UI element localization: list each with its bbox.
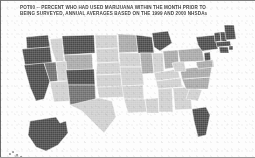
state-mt bbox=[62, 35, 95, 55]
state-al bbox=[158, 88, 173, 112]
state-az bbox=[50, 81, 70, 102]
state-ks bbox=[96, 74, 122, 87]
state-in bbox=[152, 53, 164, 73]
figure-frame: POT00 -- PERCENT WHO HAD USED MARIJUANA … bbox=[0, 0, 255, 158]
state-or bbox=[22, 47, 52, 65]
hawaii-island-1 bbox=[9, 153, 11, 155]
state-ri bbox=[229, 46, 233, 50]
frame-border-left bbox=[0, 0, 1, 158]
state-wa bbox=[26, 35, 50, 49]
state-wy bbox=[64, 54, 93, 70]
caption-line-2: BEING SURVEYED, ANNUAL AVERAGES BASED ON… bbox=[20, 10, 242, 17]
hawaii-island-3 bbox=[16, 154, 18, 156]
state-la bbox=[124, 99, 147, 113]
state-ia bbox=[119, 53, 141, 67]
state-il bbox=[140, 53, 154, 74]
hawaii-island-2 bbox=[12, 151, 14, 153]
state-ms bbox=[145, 98, 159, 113]
state-co bbox=[66, 69, 95, 85]
state-mo bbox=[120, 67, 144, 86]
state-ak bbox=[28, 117, 68, 151]
state-mi bbox=[152, 31, 172, 51]
figure-caption: POT00 -- PERCENT WHO HAD USED MARIJUANA … bbox=[20, 4, 242, 15]
state-me bbox=[224, 25, 236, 40]
state-mn bbox=[118, 34, 138, 53]
state-id bbox=[50, 38, 64, 62]
state-sd bbox=[96, 48, 119, 63]
state-ct bbox=[219, 47, 229, 53]
state-ne bbox=[96, 62, 121, 75]
state-pa bbox=[178, 48, 204, 62]
us-choropleth-map bbox=[0, 17, 255, 158]
frame-border-bottom bbox=[0, 157, 255, 158]
state-nd bbox=[95, 35, 118, 49]
state-fl bbox=[192, 107, 210, 137]
state-ar bbox=[122, 85, 144, 99]
state-wi bbox=[136, 35, 154, 53]
frame-border-top bbox=[0, 0, 255, 1]
state-tx bbox=[70, 98, 116, 133]
state-ok bbox=[97, 86, 125, 98]
